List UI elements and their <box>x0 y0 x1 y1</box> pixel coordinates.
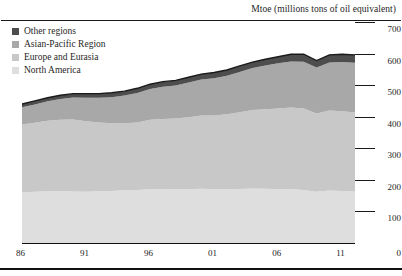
legend-swatch-north-america <box>12 67 19 74</box>
legend-item[interactable]: Europe and Eurasia <box>12 51 106 64</box>
area-band-europe-and-eurasia <box>22 108 355 193</box>
legend-swatch-other-regions <box>12 28 19 35</box>
y-axis-tick-label: 100 <box>375 213 401 223</box>
x-axis-line <box>22 243 355 244</box>
y-axis-tick-line <box>355 180 375 181</box>
x-axis-tick-label: 06 <box>272 248 296 258</box>
title-divider <box>1 20 401 21</box>
legend-item[interactable]: Other regions <box>12 25 106 38</box>
y-axis-tick-line <box>355 117 375 118</box>
area-band-north-america <box>22 188 355 243</box>
legend-swatch-asian-pacific-region <box>12 41 19 48</box>
x-axis-tick-label: 11 <box>336 248 360 258</box>
y-axis-tick-label: 400 <box>375 119 401 129</box>
y-axis-tick-label: 500 <box>375 87 401 97</box>
y-axis-tick-line <box>355 85 375 86</box>
chart-page: Mtoe (millions tons of oil equivalent) 7… <box>0 0 402 276</box>
x-axis-tick-label: 86 <box>16 248 40 258</box>
x-axis-tick-label: 01 <box>208 248 232 258</box>
x-axis-tick-label: 96 <box>144 248 168 258</box>
y-axis-tick-label: 200 <box>375 182 401 192</box>
y-axis-tick-line <box>355 22 375 23</box>
y-axis-tick-line <box>355 211 375 212</box>
legend-item-label: North America <box>24 64 81 77</box>
y-axis-tick-label: 0 <box>375 248 401 258</box>
bottom-divider <box>0 268 402 270</box>
y-axis-tick-label: 700 <box>375 24 401 34</box>
y-axis-tick-line <box>355 54 375 55</box>
legend-item-label: Asian-Pacific Region <box>24 38 106 51</box>
legend-swatch-europe-and-eurasia <box>12 54 19 61</box>
chart-title: Mtoe (millions tons of oil equivalent) <box>251 4 396 14</box>
y-axis-tick-line <box>355 148 375 149</box>
legend-item[interactable]: Asian-Pacific Region <box>12 38 106 51</box>
y-axis-tick-label: 600 <box>375 56 401 66</box>
legend-item[interactable]: North America <box>12 64 106 77</box>
legend-item-label: Other regions <box>24 25 76 38</box>
x-axis-tick-label: 91 <box>80 248 104 258</box>
y-axis-tick-label: 300 <box>375 150 401 160</box>
legend-item-label: Europe and Eurasia <box>24 51 98 64</box>
chart-legend: Other regionsAsian-Pacific RegionEurope … <box>12 25 106 77</box>
